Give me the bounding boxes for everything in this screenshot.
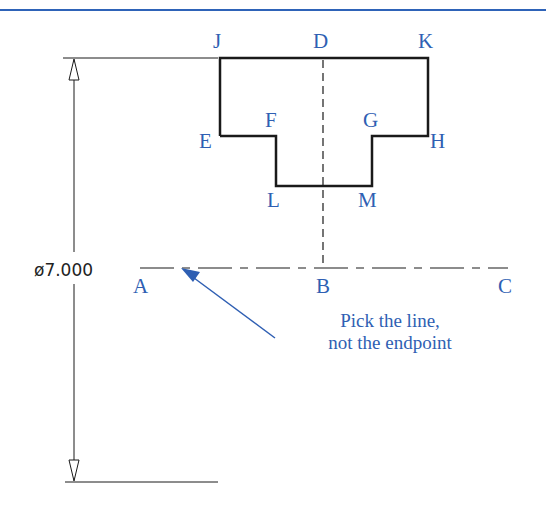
point-label-l: L xyxy=(267,190,280,211)
callout-note: Pick the line, not the endpoint xyxy=(280,310,500,354)
point-label-b: B xyxy=(316,276,330,297)
point-label-d: D xyxy=(313,31,328,52)
callout-leader xyxy=(190,275,275,338)
point-label-k: K xyxy=(418,31,433,52)
point-label-g: G xyxy=(363,110,378,131)
point-label-c: C xyxy=(498,276,512,297)
point-label-e: E xyxy=(199,131,212,152)
t-profile-outline[interactable] xyxy=(220,58,428,186)
dimension-arrow-bottom-icon xyxy=(69,460,79,481)
point-label-f: F xyxy=(265,110,277,131)
drawing-svg xyxy=(0,0,546,506)
callout-note-line2: not the endpoint xyxy=(280,332,500,354)
drawing-canvas: J D K E F G H L M A B C ø7.000 Pick the … xyxy=(0,0,546,506)
dimension-arrow-top-icon xyxy=(69,59,79,80)
point-label-h: H xyxy=(430,131,445,152)
point-label-m: M xyxy=(358,190,377,211)
diameter-dimension-label: ø7.000 xyxy=(32,262,95,279)
callout-note-line1: Pick the line, xyxy=(280,310,500,332)
point-label-a: A xyxy=(133,276,148,297)
point-label-j: J xyxy=(213,31,221,52)
